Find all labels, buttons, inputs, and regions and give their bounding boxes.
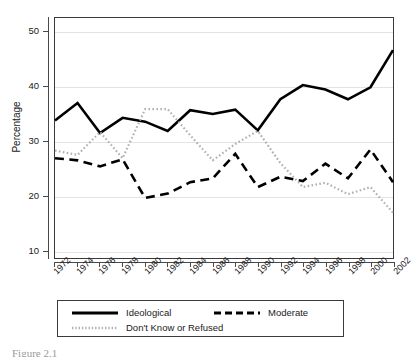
x-tick-label: 2002 xyxy=(392,256,413,277)
legend-swatch-solid-icon xyxy=(72,309,118,317)
y-tick-mark xyxy=(43,251,49,252)
series-line-ideological xyxy=(55,50,393,133)
y-axis-title: Percentage xyxy=(12,82,22,172)
y-axis-line xyxy=(48,17,49,259)
legend-label-moderate: Moderate xyxy=(268,308,308,318)
y-tick-label: 40 xyxy=(15,81,39,91)
y-tick-label: 30 xyxy=(15,136,39,146)
legend-swatch-dotted-icon xyxy=(72,324,118,332)
legend-label-dont-know-or-refused: Don't Know or Refused xyxy=(126,323,223,333)
legend-item-moderate: Moderate xyxy=(214,308,308,318)
legend-item-dont-know-or-refused: Don't Know or Refused xyxy=(72,323,223,333)
figure-caption: Figure 2.1 xyxy=(12,348,57,357)
y-tick-label: 20 xyxy=(15,191,39,201)
y-tick-mark xyxy=(43,196,49,197)
plot-area xyxy=(54,17,394,259)
y-tick-mark xyxy=(43,86,49,87)
legend-item-ideological: Ideological xyxy=(72,308,171,318)
series-line-don-t-know-or-refused xyxy=(55,109,393,213)
legend: Ideological Moderate Don't Know or Refus… xyxy=(57,300,344,337)
y-tick-label: 10 xyxy=(15,246,39,256)
legend-swatch-dashed-icon xyxy=(214,309,260,317)
y-tick-mark xyxy=(43,31,49,32)
y-tick-label: 50 xyxy=(15,26,39,36)
series-lines xyxy=(55,18,393,258)
legend-label-ideological: Ideological xyxy=(126,308,171,318)
y-tick-mark xyxy=(43,141,49,142)
